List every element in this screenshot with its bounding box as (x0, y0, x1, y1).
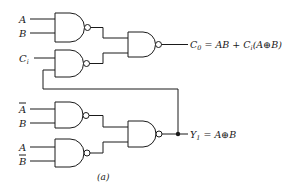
nand-gate-3 (128, 32, 162, 57)
input-label-ci: Ci (19, 53, 29, 66)
junction-dot (176, 132, 180, 136)
wire-gate1-to-gate3 (91, 28, 129, 39)
xor-symbol: ⊕ (221, 129, 229, 140)
wire-gate2-to-gate3 (90, 53, 129, 64)
inversion-bubble (83, 113, 89, 119)
input-label-b: B (18, 28, 26, 39)
inversion-bubble (84, 150, 90, 156)
nand-gate-4 (30, 102, 89, 128)
inversion-bubble (84, 61, 90, 67)
output-y1-equation: Y1 = A⊕B (190, 129, 236, 142)
input-label-b-bar: B (18, 156, 26, 167)
nand-body (55, 102, 83, 128)
nand-body (55, 50, 84, 77)
input-label-b: B (18, 118, 26, 129)
wire-gate5-to-gate6 (90, 142, 128, 153)
xor-symbol: ⊕ (263, 39, 271, 50)
inversion-bubble (85, 25, 91, 31)
nand-body (55, 13, 84, 42)
logic-circuit-diagram: A B Ci A B A B C0 = AB + Ci(A⊕B) Y1 = A⊕… (0, 0, 292, 194)
nand-gate-2 (34, 50, 90, 77)
input-label-a: A (18, 14, 26, 25)
nand-gate-1 (30, 13, 91, 42)
output-c0-equation: C0 = AB + Ci(A⊕B) (190, 39, 282, 52)
input-label-a-bar: A (18, 104, 26, 115)
nand-body (128, 32, 156, 57)
figure-caption: (a) (97, 172, 110, 182)
inversion-bubble (156, 131, 162, 137)
wire-gate4-to-gate6 (89, 116, 128, 128)
nand-body (55, 139, 84, 167)
nand-body (128, 121, 156, 147)
nand-gate-6 (128, 121, 162, 147)
input-label-a: A (18, 142, 26, 153)
nand-gate-5 (30, 139, 90, 167)
inversion-bubble (156, 42, 162, 48)
